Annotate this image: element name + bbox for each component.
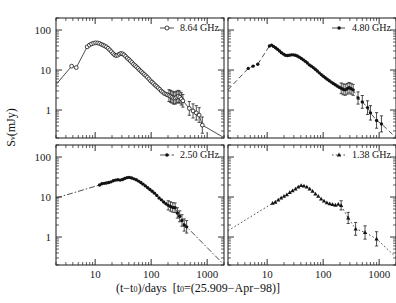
data-point: [251, 64, 254, 67]
x-tick-label: 10: [90, 268, 102, 280]
legend-label: 1.38 GHz: [352, 149, 391, 160]
x-tick-label: 1000: [368, 268, 391, 280]
legend-marker-icon: [165, 153, 169, 157]
data-point: [351, 88, 354, 91]
data-point: [380, 122, 383, 125]
data-point: [155, 194, 158, 197]
data-point: [197, 113, 201, 117]
y-tick-label: 100: [35, 24, 52, 36]
data-point: [70, 64, 74, 68]
data-point: [366, 106, 369, 109]
data-point: [200, 123, 204, 127]
data-point: [375, 119, 378, 122]
data-point: [356, 96, 359, 99]
data-point: [369, 111, 372, 114]
data-point: [256, 62, 259, 65]
x-tick-label: 100: [143, 268, 160, 280]
data-point: [247, 67, 250, 70]
data-point: [74, 66, 78, 70]
y-tick-label: 10: [40, 191, 52, 203]
y-tick-label: 1: [46, 231, 52, 243]
legend-marker-icon: [165, 26, 169, 30]
data-point: [176, 211, 179, 214]
legend-label: 4.80 GHz: [352, 22, 391, 33]
data-point: [187, 106, 191, 110]
y-tick-label: 1: [46, 104, 52, 116]
legend-label: 2.50 GHz: [180, 149, 219, 160]
radio-lightcurve-figure: 8.64 GHz4.80 GHz2.50 GHz1.38 GHz 1101001…: [0, 0, 396, 303]
y-tick-label: 100: [35, 151, 52, 163]
legend-marker-icon: [337, 26, 341, 30]
y-tick-label: 10: [40, 64, 52, 76]
x-tick-label: 1000: [196, 268, 219, 280]
x-tick-label: 100: [315, 268, 332, 280]
legend-label: 8.64 GHz: [180, 22, 219, 33]
figure-container: 8.64 GHz4.80 GHz2.50 GHz1.38 GHz 1101001…: [0, 0, 396, 303]
x-tick-label: 10: [262, 268, 274, 280]
data-point: [361, 100, 364, 103]
data-point: [181, 99, 185, 103]
data-point: [185, 225, 188, 228]
data-point: [178, 215, 181, 218]
